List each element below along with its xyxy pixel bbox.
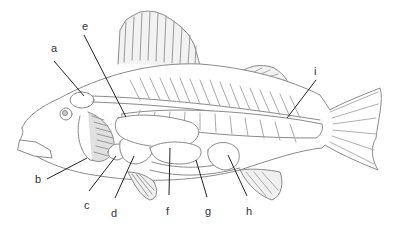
label-f: f xyxy=(166,206,169,217)
label-e: e xyxy=(82,21,88,32)
label-i: i xyxy=(314,66,316,77)
label-h: h xyxy=(246,206,252,217)
label-d: d xyxy=(111,208,117,219)
dorsal-fin-spiny xyxy=(118,11,200,66)
label-b: b xyxy=(35,174,41,185)
leader-a xyxy=(54,61,84,96)
fish-anatomy-diagram xyxy=(0,0,407,227)
label-c: c xyxy=(84,200,90,211)
label-g: g xyxy=(205,206,211,217)
label-a: a xyxy=(51,43,57,54)
